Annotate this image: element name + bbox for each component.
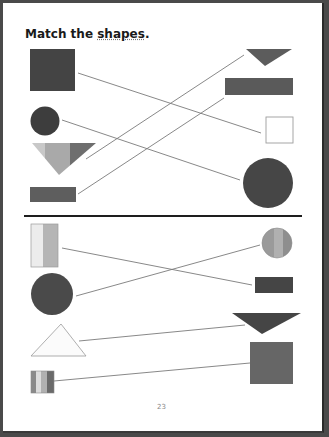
- line-vrect-to-rectangle[interactable]: [62, 248, 252, 285]
- top-connector-lines: [62, 55, 261, 194]
- left-dark-circle[interactable]: [31, 107, 60, 136]
- left-outline-triangle[interactable]: [31, 324, 86, 356]
- left-striped-square[interactable]: [31, 371, 54, 393]
- page-number: 23: [0, 403, 323, 411]
- line-circle-to-circle[interactable]: [76, 245, 260, 296]
- right-outline-square[interactable]: [266, 117, 293, 143]
- line-small-square-to-square[interactable]: [54, 363, 250, 381]
- right-gray-square[interactable]: [250, 342, 293, 384]
- right-gray-rectangle[interactable]: [225, 78, 293, 95]
- line-rectangle-to-rectangle[interactable]: [78, 98, 224, 194]
- shapes-canvas: [0, 0, 329, 437]
- left-vertical-rectangle[interactable]: [31, 224, 58, 267]
- right-down-triangle[interactable]: [246, 49, 292, 66]
- bottom-connector-lines: [54, 245, 260, 381]
- left-dark-square[interactable]: [30, 49, 75, 91]
- line-triangle-to-triangle[interactable]: [86, 55, 244, 159]
- left-gray-rectangle[interactable]: [30, 187, 76, 202]
- right-dark-circle[interactable]: [243, 158, 293, 208]
- line-triangle-to-down-triangle[interactable]: [79, 325, 245, 341]
- right-dark-rectangle[interactable]: [255, 277, 293, 293]
- right-striped-circle[interactable]: [262, 228, 292, 258]
- right-down-triangle[interactable]: [232, 313, 301, 334]
- top-section: [30, 49, 293, 208]
- line-circle-to-circle[interactable]: [62, 120, 240, 180]
- bottom-section: [31, 224, 301, 393]
- left-dark-circle[interactable]: [31, 273, 73, 315]
